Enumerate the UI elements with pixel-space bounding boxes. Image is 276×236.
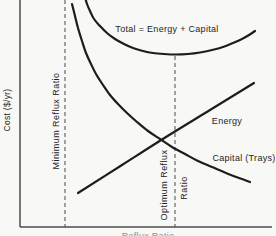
optimum-reflux-label-line2: Ratio (179, 176, 189, 199)
total-curve-label: Total = Energy + Capital (115, 24, 218, 34)
minimum-reflux-label: Minimum Reflux Ratio (51, 72, 61, 169)
optimum-reflux-label-line1: Optimum Reflux (159, 150, 169, 221)
figure: { "figure": { "y_axis_label": "Cost ($/y… (0, 0, 276, 236)
energy-curve-label: Energy (212, 116, 242, 126)
cost-vs-reflux-ratio-chart: Cost ($/yr) Minimum Reflux Ratio Total =… (0, 0, 276, 236)
x-axis-label-clipped: Reflux Ratio (122, 231, 175, 236)
capital-curve-label: Capital (Trays) (212, 153, 275, 163)
y-axis-label: Cost ($/yr) (2, 89, 12, 132)
